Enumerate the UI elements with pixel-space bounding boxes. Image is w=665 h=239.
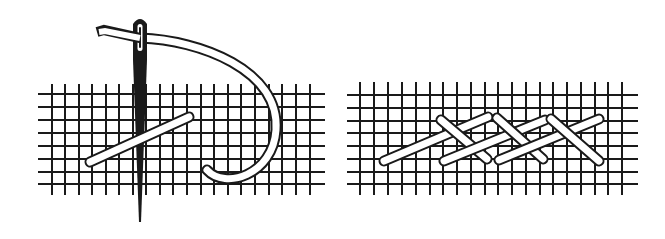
canvas-grid-left xyxy=(38,84,325,195)
embroidery-illustration: Line illustration of embroidery stitchin… xyxy=(0,0,665,239)
illustration-canvas xyxy=(0,0,665,239)
